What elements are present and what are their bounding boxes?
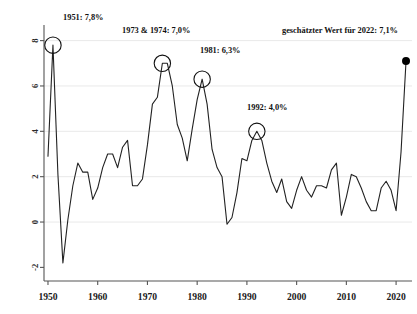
y-tick-label-8: 8 [30,38,40,43]
annotation-label-peak-1973-1974: 1973 & 1974: 7,0% [122,26,190,35]
annotation-label-estimate-2022: geschätzter Wert für 2022: 7,1% [282,26,398,35]
annotation-label-peak-1951: 1951: 7,8% [63,13,103,22]
marker-dot-estimate-2022 [402,57,410,65]
x-tick-label-1970: 1970 [138,291,157,302]
annotation-label-peak-1981: 1981: 6,3% [200,46,240,55]
y-tick-label-4: 4 [30,128,40,133]
x-tick-label-1950: 1950 [38,291,57,302]
y-tick-label-0: 0 [30,220,40,224]
annotation-label-peak-1992: 1992: 4,0% [247,103,287,112]
x-tick-label-1990: 1990 [237,291,256,302]
x-tick-label-2010: 2010 [337,291,356,302]
y-tick-label--2: -2 [30,264,40,271]
y-tick-label-6: 6 [30,83,40,88]
x-tick-label-1960: 1960 [88,291,107,302]
chart-canvas: -202468 19501960197019801990200020102020… [0,0,417,314]
x-tick-label-2020: 2020 [386,291,405,302]
y-tick-label-2: 2 [30,175,40,179]
x-tick-label-2000: 2000 [287,291,306,302]
x-tick-label-1980: 1980 [188,291,207,302]
inflation-rate-chart: -202468 19501960197019801990200020102020… [0,0,417,314]
